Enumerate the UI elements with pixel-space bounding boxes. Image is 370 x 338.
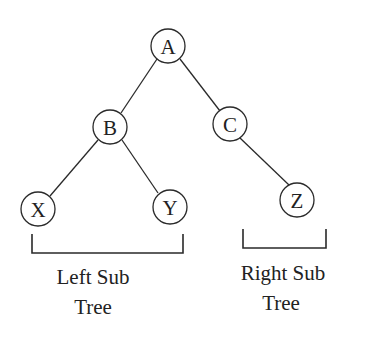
node-x: X (21, 192, 55, 226)
node-b-label: B (103, 116, 117, 140)
right-subtree-caption-line1: Right Sub (241, 261, 326, 285)
node-y: Y (153, 190, 187, 224)
edge-c-z (240, 138, 289, 185)
node-y-label: Y (162, 196, 177, 220)
node-c: C (213, 107, 247, 141)
edge-a-b (121, 59, 157, 113)
right-subtree-caption-line2: Tree (262, 291, 300, 315)
node-z-label: Z (291, 189, 304, 213)
edge-b-y (122, 140, 158, 193)
edge-b-x (50, 140, 98, 196)
right-subtree-bracket (243, 229, 326, 248)
node-c-label: C (223, 113, 237, 137)
left-subtree-caption-line1: Left Sub (57, 265, 130, 289)
left-subtree-caption-line2: Tree (74, 295, 112, 319)
node-a: A (151, 29, 185, 63)
binary-tree-diagram: A B C X Y Z Left Sub Tree Right Sub Tree (0, 0, 370, 338)
node-a-label: A (160, 35, 176, 59)
edge-a-c (180, 59, 220, 111)
node-b: B (93, 110, 127, 144)
node-x-label: X (30, 198, 45, 222)
node-z: Z (280, 183, 314, 217)
left-subtree-bracket (32, 234, 183, 253)
